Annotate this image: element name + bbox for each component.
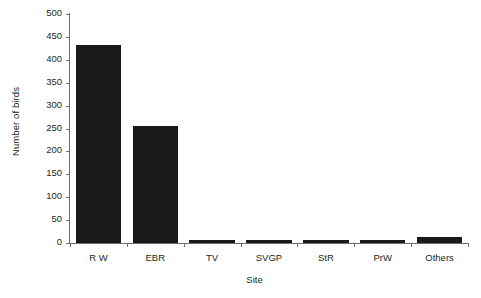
y-tick-label: 0 <box>57 236 62 247</box>
x-tick-mark <box>127 243 128 247</box>
bar <box>76 45 121 243</box>
y-tick-label: 150 <box>46 167 62 178</box>
y-tick-label: 500 <box>46 7 62 18</box>
x-tick-mark <box>468 243 469 247</box>
y-tick-label: 400 <box>46 53 62 64</box>
bar <box>246 240 291 243</box>
x-tick-mark <box>411 243 412 247</box>
x-axis-title-text: Site <box>246 274 262 285</box>
y-tick-label: 300 <box>46 99 62 110</box>
x-tick-mark <box>70 243 71 247</box>
plot-area <box>70 14 468 243</box>
y-axis-title-text: Number of birds <box>11 87 22 156</box>
y-tick-label: 350 <box>46 76 62 87</box>
y-tick-label: 100 <box>46 190 62 201</box>
bar <box>189 240 234 243</box>
x-axis-title: Site <box>0 274 481 285</box>
bar <box>417 237 462 243</box>
bar <box>360 240 405 243</box>
x-tick-label: R W <box>70 252 127 263</box>
y-tick-label: 250 <box>46 122 62 133</box>
y-axis-title: Number of birds <box>4 0 28 243</box>
x-axis-line <box>69 243 469 244</box>
x-tick-label: StR <box>297 252 354 263</box>
x-tick-mark <box>354 243 355 247</box>
x-tick-label: Others <box>411 252 468 263</box>
bar-chart: Number of birds 050100150200250300350400… <box>0 0 481 298</box>
x-tick-mark <box>297 243 298 247</box>
y-tick-label: 50 <box>51 213 62 224</box>
bar <box>303 240 348 243</box>
y-tick-label: 200 <box>46 144 62 155</box>
x-tick-label: TV <box>184 252 241 263</box>
bar <box>133 126 178 243</box>
y-tick-label: 450 <box>46 30 62 41</box>
x-tick-mark <box>241 243 242 247</box>
x-tick-label: PrW <box>354 252 411 263</box>
x-tick-label: SVGP <box>241 252 298 263</box>
x-tick-mark <box>184 243 185 247</box>
x-tick-label: EBR <box>127 252 184 263</box>
